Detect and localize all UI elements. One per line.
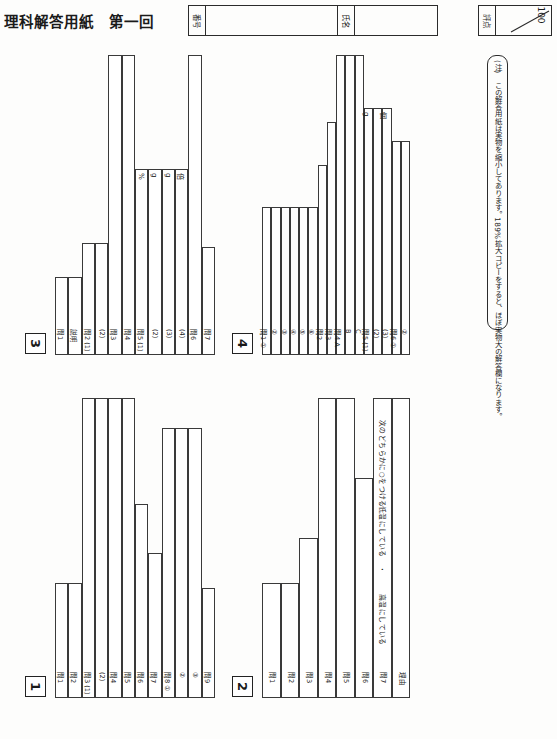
- section-number-2: 2: [232, 676, 253, 697]
- answer-sheet-page: 理科解答用紙 第一回 番号 氏名 評点 100 (注) この解答用紙は実物を縮小…: [0, 0, 557, 739]
- answer-row[interactable]: [336, 398, 355, 698]
- section-number-text: 2: [235, 682, 250, 691]
- question-label: 問7: [379, 672, 389, 683]
- question-label: 問5: [342, 672, 352, 683]
- q7-instruction: 次のどちらかに○をつける: [378, 420, 388, 508]
- answer-row[interactable]: [355, 478, 374, 698]
- answer-row[interactable]: [318, 398, 337, 698]
- section-2: 2問1問2問3問4問5問6問7理由次のどちらかに○をつける低温にしている・高温に…: [0, 0, 557, 739]
- question-label: 問1: [268, 672, 278, 683]
- question-label: 問6: [361, 672, 371, 683]
- q7-choice-high[interactable]: 高温にしている: [378, 594, 388, 646]
- question-label: 理由: [398, 672, 408, 686]
- q7-choice-separator[interactable]: ・: [378, 566, 388, 573]
- question-label: 問4: [324, 672, 334, 683]
- answer-row[interactable]: [392, 398, 411, 698]
- question-label: 問2: [287, 672, 297, 683]
- q7-choice-low[interactable]: 低温にしている: [378, 506, 388, 558]
- question-label: 問3: [305, 672, 315, 683]
